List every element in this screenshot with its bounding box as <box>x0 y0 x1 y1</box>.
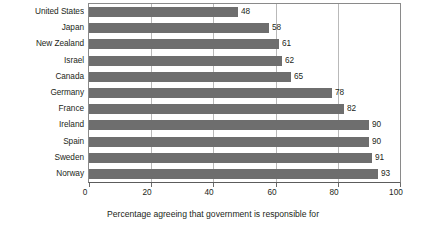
bar-value-label: 58 <box>272 22 281 33</box>
bar[interactable] <box>89 23 269 33</box>
bar[interactable] <box>89 153 372 163</box>
category-label: United States <box>3 6 84 16</box>
bar-value-label: 91 <box>375 152 384 163</box>
bar-value-label: 82 <box>347 103 356 114</box>
category-label: Germany <box>3 87 84 97</box>
chart-caption: Percentage agreeing that government is r… <box>6 208 419 220</box>
bar-row[interactable]: 93 <box>89 169 400 179</box>
bar-value-label: 93 <box>381 168 390 179</box>
bar[interactable] <box>89 120 369 130</box>
x-tick-label: 100 <box>389 187 403 198</box>
category-label: Sweden <box>3 152 84 162</box>
bar-row[interactable]: 90 <box>89 120 400 130</box>
x-tick-label: 80 <box>329 187 338 198</box>
bar-row[interactable]: 48 <box>89 7 400 17</box>
bar[interactable] <box>89 169 378 179</box>
category-label: Ireland <box>3 119 84 129</box>
bar-row[interactable]: 58 <box>89 23 400 33</box>
bar-row[interactable]: 91 <box>89 153 400 163</box>
x-tick-label: 20 <box>143 187 152 198</box>
bar-row[interactable]: 61 <box>89 39 400 49</box>
bar-value-label: 78 <box>335 87 344 98</box>
bar[interactable] <box>89 104 344 114</box>
category-label: Spain <box>3 136 84 146</box>
bar[interactable] <box>89 137 369 147</box>
bar-row[interactable]: 82 <box>89 104 400 114</box>
bar-value-label: 48 <box>241 6 250 17</box>
bar-row[interactable]: 78 <box>89 88 400 98</box>
category-label: France <box>3 103 84 113</box>
x-tick-label: 40 <box>205 187 214 198</box>
bar[interactable] <box>89 7 238 17</box>
bar-row[interactable]: 62 <box>89 56 400 66</box>
bar-value-label: 61 <box>282 38 291 49</box>
bar[interactable] <box>89 39 279 49</box>
category-label: Norway <box>3 168 84 178</box>
bar-series: 4858616265788290909193 <box>89 4 400 182</box>
bar-chart-figure: United StatesJapanNew ZealandIsraelCanad… <box>0 0 426 230</box>
category-label: Canada <box>3 71 84 81</box>
x-tick-label: 60 <box>267 187 276 198</box>
x-tick-label: 0 <box>83 187 88 198</box>
category-label: Israel <box>3 55 84 65</box>
bar-value-label: 90 <box>372 119 381 130</box>
bar[interactable] <box>89 88 332 98</box>
bar-row[interactable]: 90 <box>89 137 400 147</box>
category-label: Japan <box>3 22 84 32</box>
bar-value-label: 65 <box>294 71 303 82</box>
category-label: New Zealand <box>3 38 84 48</box>
x-axis: 020406080100 <box>88 183 401 205</box>
bar-row[interactable]: 65 <box>89 72 400 82</box>
plot-area: 4858616265788290909193 <box>88 3 401 183</box>
bar-value-label: 62 <box>285 55 294 66</box>
x-tick-mark <box>89 183 90 187</box>
bar-value-label: 90 <box>372 136 381 147</box>
category-axis-labels: United StatesJapanNew ZealandIsraelCanad… <box>0 3 84 183</box>
bar[interactable] <box>89 56 282 66</box>
bar[interactable] <box>89 72 291 82</box>
